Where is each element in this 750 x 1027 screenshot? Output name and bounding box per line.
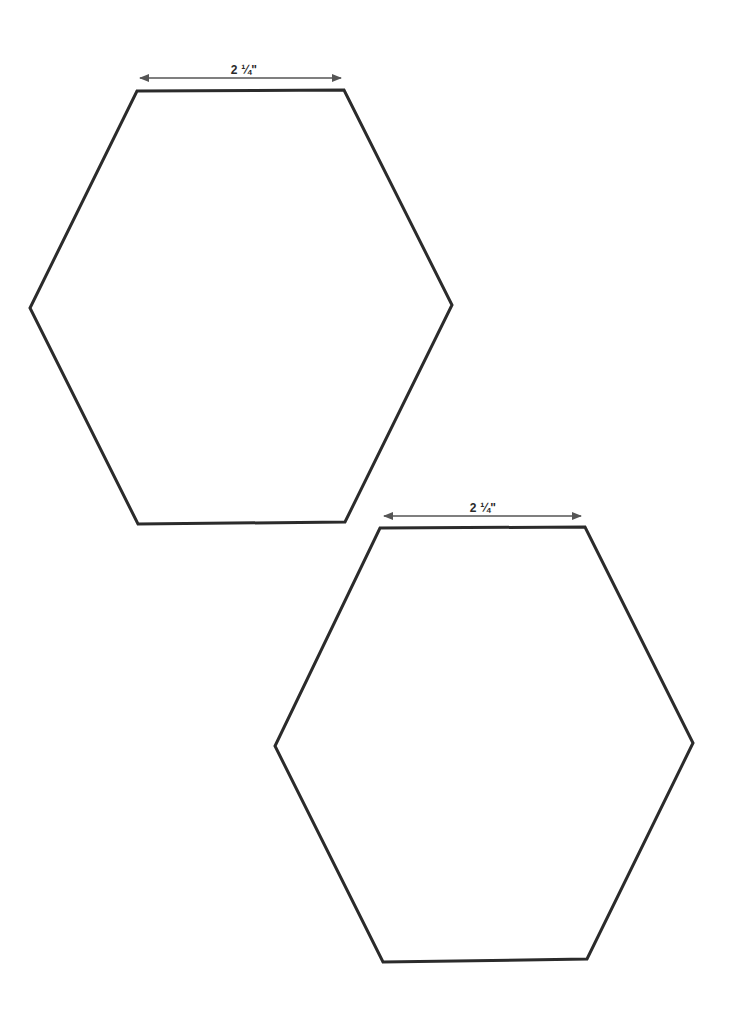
hexagon-1-group <box>30 78 452 524</box>
hexagon-template-canvas <box>0 0 750 1027</box>
dimension-label-2: 2 ¼" <box>470 501 497 515</box>
dimension-label-1: 2 ¼" <box>231 63 258 77</box>
hexagon-2-outline <box>275 527 693 962</box>
hexagon-2-group <box>275 516 693 962</box>
hexagon-1-outline <box>30 90 452 524</box>
